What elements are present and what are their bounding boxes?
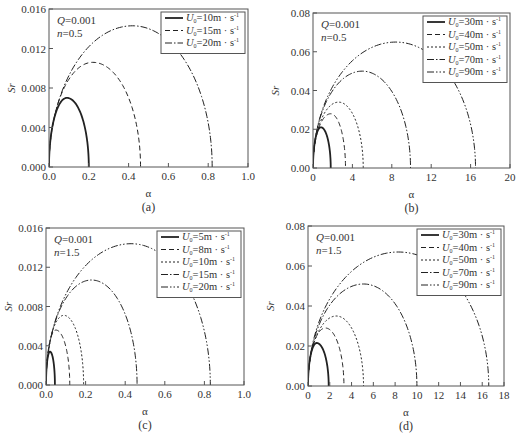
curve-u0-70 bbox=[313, 71, 411, 168]
legend-value: =70m · s bbox=[453, 267, 490, 278]
annotation-value: =0.5 bbox=[63, 27, 83, 39]
annotation-q: Q=0.001 bbox=[57, 14, 96, 26]
annotation-q: Q=0.001 bbox=[316, 231, 355, 243]
legend-value: =90m · s bbox=[453, 279, 490, 290]
annotation-var: Q bbox=[57, 14, 65, 26]
annotation-q: Q=0.001 bbox=[54, 233, 93, 245]
x-axis-label: α bbox=[409, 188, 415, 200]
y-tick-label: 0.012 bbox=[21, 43, 46, 55]
x-tick-label: 14 bbox=[455, 389, 467, 401]
legend-exponent: -1 bbox=[225, 244, 230, 250]
legend-value: =40m · s bbox=[459, 29, 496, 40]
legend-exponent: -1 bbox=[234, 37, 239, 43]
legend: U0=10m · s-1U0=15m · s-1U0=20m · s-1 bbox=[161, 12, 245, 54]
legend-exponent: -1 bbox=[496, 41, 501, 47]
y-tick-label: 0.008 bbox=[21, 82, 46, 94]
curve-u0-30 bbox=[313, 127, 331, 168]
curve-u0-10 bbox=[49, 98, 89, 167]
x-tick-label: 0.4 bbox=[122, 170, 136, 182]
curve-u0-50 bbox=[313, 102, 363, 168]
y-tick-label: 0.00 bbox=[291, 162, 311, 174]
x-tick-label: 12 bbox=[426, 171, 437, 183]
y-tick-label: 0.02 bbox=[286, 340, 305, 352]
chart-canvas: 0.00.20.40.60.81.00.0000.0040.0080.0120.… bbox=[0, 0, 517, 437]
annotation-n: n=0.5 bbox=[57, 27, 83, 39]
panel-d: 0246810121416180.000.020.040.060.08αSr(d… bbox=[264, 220, 510, 433]
legend-exponent: -1 bbox=[230, 281, 235, 287]
legend-value: =30m · s bbox=[453, 229, 490, 240]
legend-exponent: -1 bbox=[490, 242, 495, 248]
legend-value: =8m · s bbox=[193, 244, 225, 255]
panel-caption: (a) bbox=[142, 200, 155, 214]
legend-exponent: -1 bbox=[230, 256, 235, 262]
legend-entry-u0-5: U0=5m · s-1 bbox=[182, 231, 230, 243]
panel-caption: (c) bbox=[138, 418, 151, 432]
x-axis-label: α bbox=[146, 187, 152, 199]
x-tick-label: 16 bbox=[477, 389, 489, 401]
y-axis-label: Sr bbox=[269, 85, 281, 96]
x-tick-label: 20 bbox=[505, 171, 517, 183]
legend: U0=5m · s-1U0=8m · s-1U0=10m · s-1U0=15m… bbox=[157, 231, 241, 298]
legend-value: =15m · s bbox=[193, 269, 230, 280]
legend-value: =20m · s bbox=[193, 281, 230, 292]
y-tick-label: 0.06 bbox=[291, 46, 311, 58]
y-tick-label: 0.06 bbox=[286, 260, 306, 272]
annotation-var: Q bbox=[316, 231, 324, 243]
x-tick-label: 0.8 bbox=[201, 170, 215, 182]
y-tick-label: 0.08 bbox=[286, 220, 306, 232]
annotation-value: =1.5 bbox=[322, 244, 342, 256]
annotation-var: Q bbox=[54, 233, 62, 245]
y-tick-label: 0.004 bbox=[18, 340, 43, 352]
y-axis-label: Sr bbox=[2, 301, 14, 312]
x-tick-label: 0.2 bbox=[82, 170, 96, 182]
x-axis-label: α bbox=[142, 405, 148, 417]
annotation-n: n=1.5 bbox=[54, 246, 80, 258]
legend-value: =5m · s bbox=[193, 231, 225, 242]
legend-value: =50m · s bbox=[453, 254, 490, 265]
legend-exponent: -1 bbox=[230, 269, 235, 275]
legend-exponent: -1 bbox=[496, 66, 501, 72]
legend-value: =70m · s bbox=[459, 54, 496, 65]
legend-value: =20m · s bbox=[197, 37, 234, 48]
curve-u0-8 bbox=[46, 330, 70, 385]
legend-exponent: -1 bbox=[234, 12, 239, 18]
x-tick-label: 0 bbox=[305, 389, 311, 401]
x-tick-label: 0.6 bbox=[158, 388, 172, 400]
legend-exponent: -1 bbox=[490, 254, 495, 260]
legend-value: =40m · s bbox=[453, 242, 490, 253]
x-tick-label: 10 bbox=[411, 389, 423, 401]
y-tick-label: 0.000 bbox=[18, 379, 43, 391]
panel-a: 0.00.20.40.60.81.00.0000.0040.0080.0120.… bbox=[5, 3, 255, 214]
curve-u0-50 bbox=[308, 316, 364, 386]
annotation-value: =1.5 bbox=[60, 246, 80, 258]
legend-exponent: -1 bbox=[225, 231, 230, 237]
legend-exponent: -1 bbox=[496, 16, 501, 22]
annotation-value: =0.001 bbox=[65, 14, 96, 26]
legend: U0=30m · s-1U0=40m · s-1U0=50m · s-1U0=7… bbox=[423, 16, 507, 83]
legend-exponent: -1 bbox=[490, 229, 495, 235]
x-tick-label: 0.6 bbox=[162, 170, 176, 182]
legend-exponent: -1 bbox=[496, 54, 501, 60]
panel-caption: (d) bbox=[399, 419, 413, 433]
y-tick-label: 0.04 bbox=[291, 85, 311, 97]
legend-exponent: -1 bbox=[234, 25, 239, 31]
legend-value: =50m · s bbox=[459, 41, 496, 52]
y-tick-label: 0.016 bbox=[21, 3, 46, 15]
annotation-value: =0.5 bbox=[327, 31, 347, 43]
x-tick-label: 18 bbox=[499, 389, 511, 401]
legend-exponent: -1 bbox=[496, 29, 501, 35]
curve-u0-15 bbox=[49, 62, 141, 167]
x-axis-label: α bbox=[403, 406, 409, 418]
y-tick-label: 0.016 bbox=[18, 222, 43, 234]
legend-entry-u0-8: U0=8m · s-1 bbox=[182, 244, 230, 256]
legend-value: =10m · s bbox=[193, 256, 230, 267]
y-tick-label: 0.000 bbox=[21, 161, 46, 173]
x-tick-label: 0.4 bbox=[118, 388, 132, 400]
y-tick-label: 0.004 bbox=[21, 122, 46, 134]
y-tick-label: 0.04 bbox=[286, 300, 306, 312]
panel-caption: (b) bbox=[405, 201, 419, 215]
x-tick-label: 8 bbox=[389, 171, 395, 183]
panel-c: 0.00.20.40.60.81.00.0000.0040.0080.0120.… bbox=[2, 222, 251, 432]
legend-value: =15m · s bbox=[197, 25, 234, 36]
annotation-value: =0.001 bbox=[329, 18, 360, 30]
